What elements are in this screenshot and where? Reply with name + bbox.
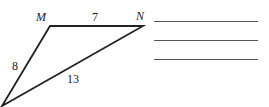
side-label-mp: 8 xyxy=(12,60,18,72)
answer-line-3[interactable] xyxy=(154,59,258,60)
answer-line-1[interactable] xyxy=(154,21,258,22)
side-label-mn: 7 xyxy=(92,11,98,23)
side-label-np: 13 xyxy=(67,73,79,85)
vertex-label-m: M xyxy=(36,11,46,23)
answer-line-2[interactable] xyxy=(154,40,258,41)
vertex-label-n: N xyxy=(136,10,144,22)
